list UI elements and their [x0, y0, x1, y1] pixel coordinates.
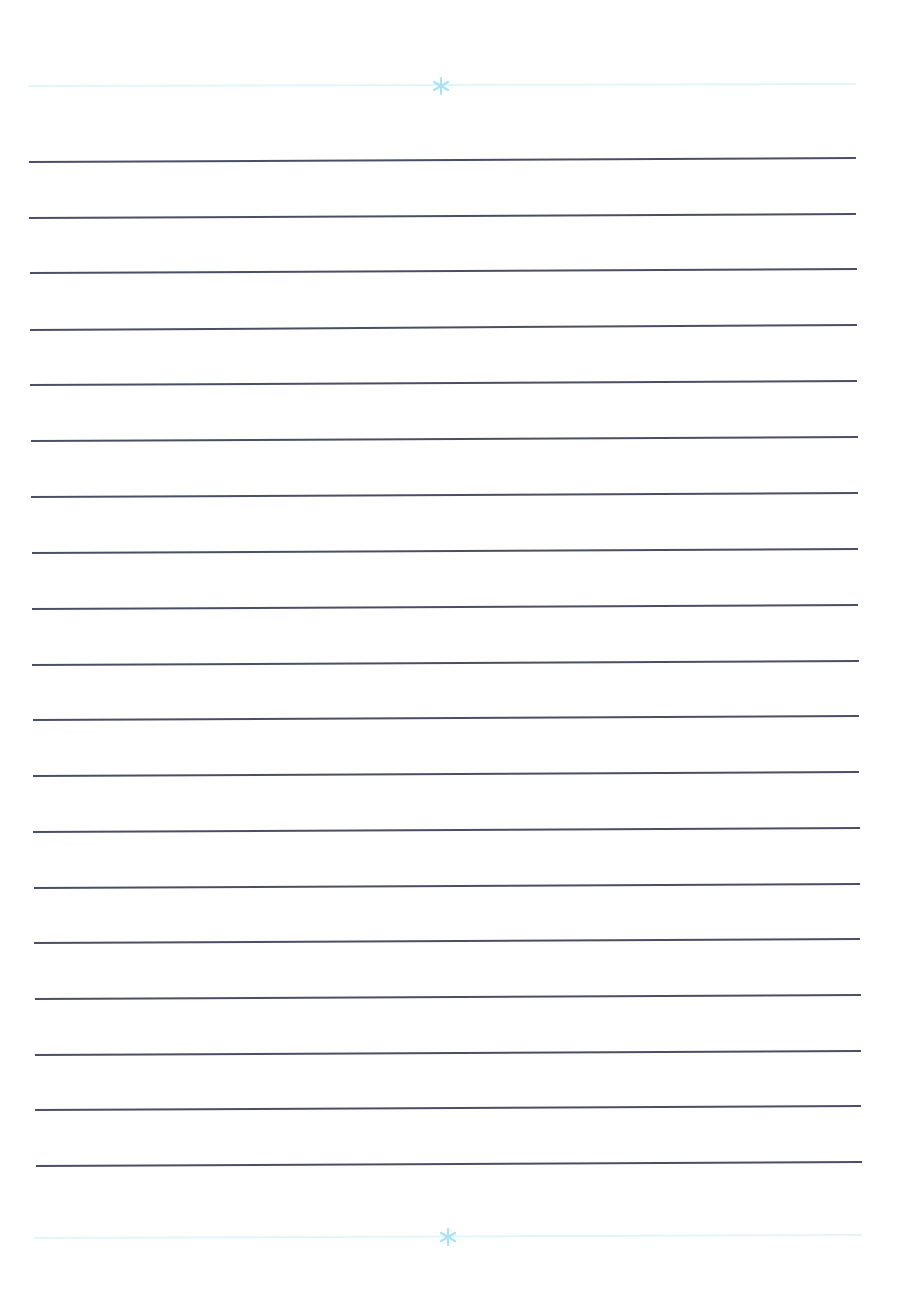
ruled-line — [34, 938, 860, 944]
ruled-line — [36, 1161, 862, 1167]
ruled-line — [31, 436, 858, 442]
ruled-line — [35, 1050, 861, 1056]
ruled-line — [31, 492, 858, 498]
ruled-line — [29, 157, 856, 163]
ruled-line — [34, 883, 860, 889]
ruled-line — [32, 604, 858, 610]
ruled-line — [30, 324, 857, 331]
top-asterisk-ornament-icon — [431, 76, 451, 96]
lined-paper-page — [0, 0, 902, 1307]
ruled-line — [35, 994, 861, 1000]
bottom-asterisk-ornament-icon — [438, 1227, 458, 1247]
ruled-line — [29, 213, 856, 219]
ruled-line — [30, 268, 857, 274]
ruled-line — [32, 660, 859, 666]
ruled-line — [35, 1105, 861, 1111]
ruled-line — [33, 771, 859, 777]
ruled-line — [30, 380, 857, 386]
ruled-line — [33, 715, 859, 721]
ruled-line — [33, 827, 860, 833]
ruled-line — [32, 548, 858, 554]
